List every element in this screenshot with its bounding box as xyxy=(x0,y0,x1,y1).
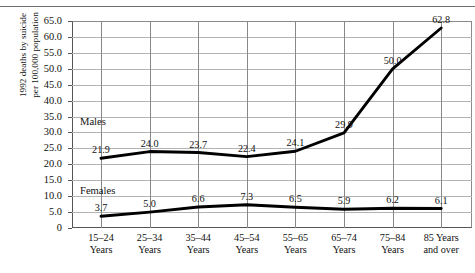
y-axis-tick-label: 50.0 xyxy=(2,63,62,74)
y-axis-tick-label: 40.0 xyxy=(2,95,62,106)
data-point-label: 5.0 xyxy=(143,199,156,209)
y-axis-tick-label: 20.0 xyxy=(2,158,62,169)
data-point-label: 22.4 xyxy=(238,144,256,154)
data-point-label: 62.8 xyxy=(432,15,450,25)
data-point-label: 7.3 xyxy=(240,192,253,202)
y-axis-tick-label: 25.0 xyxy=(2,142,62,153)
data-point-label: 29.9 xyxy=(335,120,353,130)
series-label-males: Males xyxy=(80,116,106,127)
y-axis-tick-label: 45.0 xyxy=(2,79,62,90)
data-point-label: 24.0 xyxy=(141,139,159,149)
data-point-label: 50.0 xyxy=(384,56,402,66)
y-axis-tick-label: 5.0 xyxy=(2,206,62,217)
top-rule-divider xyxy=(0,6,475,7)
y-axis-tick-label: 30.0 xyxy=(2,126,62,137)
y-axis-tick-label: 0 xyxy=(2,222,62,233)
y-axis-tick-labels: 05.010.015.020.025.030.035.040.045.050.0… xyxy=(0,0,68,273)
data-point-label: 6.1 xyxy=(435,196,448,206)
y-axis-tick-mark xyxy=(68,228,72,229)
y-axis-tick-label: 55.0 xyxy=(2,47,62,58)
y-axis-tick-label: 65.0 xyxy=(2,15,62,26)
figure-container: 1992 deaths by suicide per 100,000 popul… xyxy=(0,0,475,273)
data-point-label: 6.6 xyxy=(192,194,205,204)
y-axis-tick-label: 15.0 xyxy=(2,174,62,185)
plot-area: 21.924.023.722.424.129.950.062.8 3.75.06… xyxy=(72,21,472,228)
data-point-label: 24.1 xyxy=(286,138,304,148)
x-axis-tick-label: 85 Yearsand over xyxy=(411,232,471,256)
series-lines xyxy=(72,21,472,228)
y-axis-tick-label: 35.0 xyxy=(2,111,62,122)
data-point-label: 6.5 xyxy=(289,194,302,204)
y-axis-tick-label: 10.0 xyxy=(2,190,62,201)
data-point-label: 5.9 xyxy=(338,196,351,206)
series-label-females: Females xyxy=(80,185,115,196)
x-tick-line-1: 85 Years xyxy=(411,232,471,244)
y-axis-tick-label: 60.0 xyxy=(2,31,62,42)
data-point-label: 21.9 xyxy=(92,145,110,155)
x-tick-line-2: and over xyxy=(411,244,471,256)
data-point-label: 6.2 xyxy=(386,195,399,205)
data-point-label: 3.7 xyxy=(95,203,108,213)
data-point-label: 23.7 xyxy=(189,140,207,150)
